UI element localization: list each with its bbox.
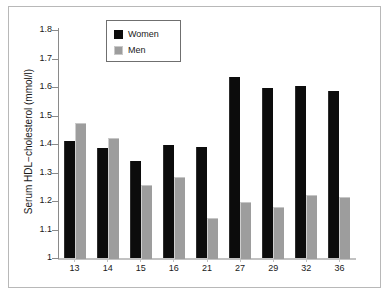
y-axis-tick — [52, 59, 59, 60]
x-axis-tick — [74, 258, 75, 262]
y-axis-tick-label: 1.5 — [24, 111, 52, 120]
plot-area: Serum HDL−cholesterol (mmol/l) 1.81.71.6… — [0, 0, 389, 294]
x-axis-tick — [173, 258, 174, 262]
bar-women-16 — [163, 145, 174, 258]
y-axis-tick — [52, 144, 59, 145]
legend-label-women: Women — [128, 29, 159, 39]
chart-legend: Women Men — [106, 20, 181, 62]
x-axis-tick-label: 36 — [319, 263, 359, 273]
legend-item-women: Women — [114, 28, 159, 40]
y-axis-tick-label: 1.6 — [24, 82, 52, 91]
y-axis-tick-label: 1.3 — [24, 168, 52, 177]
x-axis-tick — [240, 258, 241, 262]
bar-women-15 — [130, 161, 141, 258]
bar-women-13 — [64, 141, 75, 258]
x-axis-tick — [207, 258, 208, 262]
legend-label-men: Men — [128, 45, 146, 55]
bar-men-21 — [207, 218, 218, 259]
x-axis-tick — [339, 258, 340, 262]
x-axis-tick — [107, 258, 108, 262]
x-axis-tick — [140, 258, 141, 262]
bar-women-36 — [328, 91, 339, 258]
y-axis-tick — [52, 30, 59, 31]
bar-women-21 — [196, 147, 207, 258]
x-axis-tick — [273, 258, 274, 262]
legend-swatch-women-icon — [114, 30, 123, 39]
x-axis-tick — [306, 258, 307, 262]
bar-men-29 — [273, 207, 284, 259]
bar-women-32 — [295, 86, 306, 258]
y-axis-tick — [52, 116, 59, 117]
bar-men-13 — [75, 123, 86, 259]
y-axis-tick-label: 1.8 — [24, 25, 52, 34]
y-axis-tick-label: 1.2 — [24, 196, 52, 205]
y-axis-tick-label: 1.4 — [24, 139, 52, 148]
y-axis-tick — [52, 87, 59, 88]
y-axis-tick — [52, 258, 59, 259]
y-axis-tick-label: 1.1 — [24, 225, 52, 234]
chart-figure: Serum HDL−cholesterol (mmol/l) 1.81.71.6… — [0, 0, 389, 294]
bar-women-14 — [97, 148, 108, 258]
y-axis-tick-label: 1.7 — [24, 54, 52, 63]
legend-item-men: Men — [114, 44, 146, 56]
y-axis-tick — [52, 173, 59, 174]
y-axis-tick — [52, 201, 59, 202]
bar-women-27 — [229, 77, 240, 258]
bar-men-14 — [108, 138, 119, 259]
legend-swatch-men-icon — [114, 46, 123, 55]
bar-men-16 — [174, 177, 185, 259]
bar-men-27 — [240, 202, 251, 259]
y-axis-tick-label: 1 — [24, 253, 52, 262]
bar-men-15 — [141, 185, 152, 259]
bar-men-32 — [306, 195, 317, 259]
y-axis-tick — [52, 230, 59, 231]
bar-men-36 — [339, 197, 350, 259]
bar-women-29 — [262, 88, 273, 258]
